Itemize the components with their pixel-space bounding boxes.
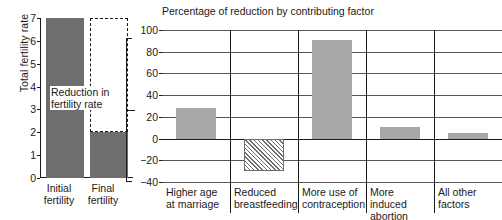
right-ytick-0: 0 <box>134 133 162 145</box>
left-ytick-mark-7 <box>37 18 40 19</box>
category-separator-1 <box>230 30 231 182</box>
left-category-1-line1: Final <box>77 182 129 194</box>
bar-final-fertility <box>90 132 128 178</box>
right-ytick-minus-40: −40 <box>134 176 162 188</box>
gridline-minus-40 <box>162 182 502 183</box>
bar-all-other-factors <box>448 133 489 138</box>
left-ytick-5: 5 <box>10 58 40 70</box>
category-label-separator-2 <box>298 183 299 213</box>
right-category-2-line2: contraception <box>302 198 364 210</box>
category-separator-2 <box>298 30 299 182</box>
gridline-zero <box>162 139 502 141</box>
right-category-all-other-factors: All other factors <box>438 186 500 210</box>
category-separator-3 <box>366 30 367 182</box>
reduction-annotation: Reduction in fertility rate <box>50 86 110 110</box>
left-ytick-mark-4 <box>37 87 40 88</box>
reduction-dashed-box <box>90 18 128 132</box>
right-ytick-40: 40 <box>134 89 162 101</box>
left-ytick-mark-6 <box>37 41 40 42</box>
left-y-axis-line <box>40 18 41 178</box>
left-ytick-1: 1 <box>10 149 40 161</box>
left-ytick-mark-2 <box>37 132 40 133</box>
bar-more-use-of-contraception <box>312 40 353 139</box>
left-ytick-3: 3 <box>10 103 40 115</box>
category-label-separator-1 <box>230 183 231 213</box>
right-category-more-use-of-contraception: More use of contraception <box>302 186 364 210</box>
right-panel-percentage-reduction: Percentage of reduction by contributing … <box>140 0 502 220</box>
right-ytick-mark-20 <box>159 117 162 118</box>
gridline-minus-20 <box>162 160 502 161</box>
category-label-separator-4 <box>434 183 435 213</box>
right-ytick-mark-80 <box>159 52 162 53</box>
bracket-bottom-arm <box>126 181 132 182</box>
left-ytick-7: 7 <box>10 12 40 24</box>
right-category-reduced-breastfeeding: Reduced breastfeeding <box>234 186 296 210</box>
right-ytick-100: 100 <box>134 24 162 36</box>
right-category-3-line1: More induced <box>370 186 432 210</box>
left-ytick-mark-3 <box>37 109 40 110</box>
bracket-top-arm <box>126 38 132 39</box>
right-category-0-line2: at marriage <box>166 198 228 210</box>
right-category-4-line1: All other <box>438 186 500 198</box>
right-category-0-line1: Higher age <box>166 186 228 198</box>
left-category-1-line2: fertility <box>77 194 129 206</box>
right-ytick-80: 80 <box>134 46 162 58</box>
left-ytick-mark-0 <box>37 178 40 179</box>
left-ytick-6: 6 <box>10 35 40 47</box>
right-category-higher-age-at-marriage: Higher age at marriage <box>166 186 228 210</box>
right-ytick-mark-minus-20 <box>159 160 162 161</box>
right-ytick-mark-100 <box>159 30 162 31</box>
bar-higher-age-at-marriage <box>176 108 217 138</box>
reduction-annotation-line1: Reduction in <box>51 86 109 98</box>
right-ytick-mark-40 <box>159 95 162 96</box>
gridline-100 <box>162 30 502 31</box>
right-category-more-induced-abortion: More induced abortion <box>370 186 432 220</box>
right-ytick-60: 60 <box>134 67 162 79</box>
bar-more-induced-abortion <box>380 127 421 139</box>
right-chart-title: Percentage of reduction by contributing … <box>162 5 374 17</box>
figure-two-panel-fertility-chart: Total fertility rate 7 6 5 4 3 2 1 0 <box>0 0 502 220</box>
left-ytick-2: 2 <box>10 126 40 138</box>
bar-reduced-breastfeeding <box>244 139 285 172</box>
right-category-4-line2: factors <box>438 198 500 210</box>
reduction-annotation-line2: fertility rate <box>51 98 109 110</box>
left-ytick-mark-1 <box>37 155 40 156</box>
right-plot-area: 100 80 60 40 20 0 −20 −40 <box>162 30 502 182</box>
right-ytick-20: 20 <box>134 111 162 123</box>
right-category-1-line2: breastfeeding <box>234 198 296 210</box>
left-panel-total-fertility-rate: Total fertility rate 7 6 5 4 3 2 1 0 <box>0 0 140 220</box>
right-ytick-minus-20: −20 <box>134 154 162 166</box>
left-ytick-mark-5 <box>37 64 40 65</box>
right-ytick-mark-0 <box>159 139 162 140</box>
right-category-3-line2: abortion <box>370 210 432 220</box>
right-category-2-line1: More use of <box>302 186 364 198</box>
category-separator-4 <box>434 30 435 182</box>
right-category-1-line1: Reduced <box>234 186 296 198</box>
category-label-separator-3 <box>366 183 367 213</box>
left-ytick-4: 4 <box>10 81 40 93</box>
right-ytick-mark-minus-40 <box>159 182 162 183</box>
left-category-final-fertility: Final fertility <box>77 182 129 206</box>
right-ytick-mark-60 <box>159 73 162 74</box>
